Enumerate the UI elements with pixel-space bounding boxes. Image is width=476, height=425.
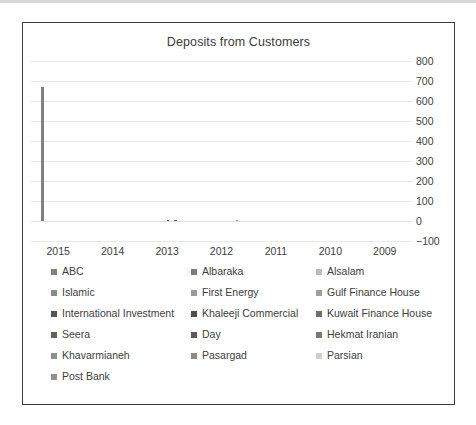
legend-item[interactable]: Gulf Finance House: [316, 287, 449, 298]
legend-item[interactable]: Post Bank: [51, 371, 191, 382]
legend-label: ABC: [62, 266, 84, 277]
legend-swatch-icon: [316, 311, 322, 317]
legend-label: Kuwait Finance House: [327, 308, 432, 319]
x-axis-tick-label: 2014: [101, 245, 124, 257]
legend-row: KhavarmianehPasargadParsian: [51, 345, 449, 366]
legend-swatch-icon: [51, 374, 57, 380]
legend-swatch-icon: [316, 290, 322, 296]
legend-label: Parsian: [327, 350, 363, 361]
legend-swatch-icon: [51, 290, 57, 296]
x-axis-tick-label: 2013: [155, 245, 178, 257]
legend-swatch-icon: [191, 290, 197, 296]
gridline: [31, 201, 412, 202]
legend-item[interactable]: Day: [191, 329, 316, 340]
legend-label: Alsalam: [327, 266, 364, 277]
legend-item[interactable]: Albaraka: [191, 266, 316, 277]
y-axis-tick-label: 800: [416, 55, 450, 67]
legend-swatch-icon: [51, 311, 57, 317]
legend-label: Khaleeji Commercial: [202, 308, 298, 319]
legend-item[interactable]: Seera: [51, 329, 191, 340]
bar: [41, 87, 43, 221]
legend-label: Islamic: [62, 287, 95, 298]
gridline: [31, 221, 412, 222]
x-axis-tick-label: 2010: [319, 245, 342, 257]
gridline: [31, 81, 412, 82]
gridline: [31, 181, 412, 182]
legend-row: ABCAlbarakaAlsalam: [51, 261, 449, 282]
y-axis-tick-label: 500: [416, 115, 450, 127]
legend-row: Post Bank: [51, 366, 449, 387]
bar: [236, 220, 238, 221]
x-axis-tick-label: 2009: [373, 245, 396, 257]
y-axis-tick-label: 100: [416, 195, 450, 207]
gridline: [31, 241, 412, 242]
legend-label: Seera: [62, 329, 90, 340]
legend-row: SeeraDayHekmat Iranian: [51, 324, 449, 345]
legend-label: Post Bank: [62, 371, 110, 382]
legend-item[interactable]: Pasargad: [191, 350, 316, 361]
y-axis-tick-label: 600: [416, 95, 450, 107]
y-axis-tick-label: 300: [416, 155, 450, 167]
legend-swatch-icon: [191, 269, 197, 275]
plot-area: [31, 61, 412, 241]
chart-title: Deposits from Customers: [23, 35, 454, 49]
legend-item[interactable]: First Energy: [191, 287, 316, 298]
legend-label: First Energy: [202, 287, 259, 298]
y-axis-tick-label: 200: [416, 175, 450, 187]
legend-item[interactable]: Hekmat Iranian: [316, 329, 449, 340]
legend-label: Albaraka: [202, 266, 243, 277]
gridline: [31, 61, 412, 62]
gridline: [31, 141, 412, 142]
y-axis-tick-label: 400: [416, 135, 450, 147]
bar: [174, 220, 176, 221]
x-axis-tick-label: 2012: [210, 245, 233, 257]
legend-item[interactable]: Khaleeji Commercial: [191, 308, 316, 319]
x-axis-tick-labels: 2015201420132012201120102009: [31, 243, 412, 263]
legend-swatch-icon: [316, 269, 322, 275]
bar: [167, 220, 169, 221]
legend-item[interactable]: ABC: [51, 266, 191, 277]
legend-swatch-icon: [51, 332, 57, 338]
page-top-strip: [0, 0, 476, 3]
gridline: [31, 101, 412, 102]
legend-swatch-icon: [316, 332, 322, 338]
legend-swatch-icon: [51, 353, 57, 359]
x-axis-tick-label: 2015: [47, 245, 70, 257]
legend-swatch-icon: [316, 353, 322, 359]
chart-frame: Deposits from Customers 8007006005004003…: [22, 22, 455, 405]
legend-item[interactable]: Islamic: [51, 287, 191, 298]
chart-legend: ABCAlbarakaAlsalamIslamicFirst EnergyGul…: [51, 261, 449, 387]
gridline: [31, 161, 412, 162]
legend-item[interactable]: Parsian: [316, 350, 449, 361]
legend-label: Khavarmianeh: [62, 350, 130, 361]
legend-item[interactable]: Kuwait Finance House: [316, 308, 449, 319]
y-axis-tick-label: 0: [416, 215, 450, 227]
gridline: [31, 121, 412, 122]
legend-swatch-icon: [191, 311, 197, 317]
legend-row: International InvestmentKhaleeji Commerc…: [51, 303, 449, 324]
legend-label: Gulf Finance House: [327, 287, 420, 298]
legend-item[interactable]: International Investment: [51, 308, 191, 319]
legend-swatch-icon: [51, 269, 57, 275]
legend-label: Hekmat Iranian: [327, 329, 398, 340]
y-axis-tick-label: 700: [416, 75, 450, 87]
legend-label: Pasargad: [202, 350, 247, 361]
legend-row: IslamicFirst EnergyGulf Finance House: [51, 282, 449, 303]
legend-swatch-icon: [191, 332, 197, 338]
legend-swatch-icon: [191, 353, 197, 359]
legend-item[interactable]: Khavarmianeh: [51, 350, 191, 361]
x-axis-tick-label: 2011: [265, 245, 288, 257]
plot-wrap: 8007006005004003002001000−100 2015201420…: [31, 61, 448, 257]
legend-label: International Investment: [62, 308, 174, 319]
legend-label: Day: [202, 329, 221, 340]
legend-item[interactable]: Alsalam: [316, 266, 449, 277]
y-axis-tick-label: −100: [416, 235, 450, 247]
